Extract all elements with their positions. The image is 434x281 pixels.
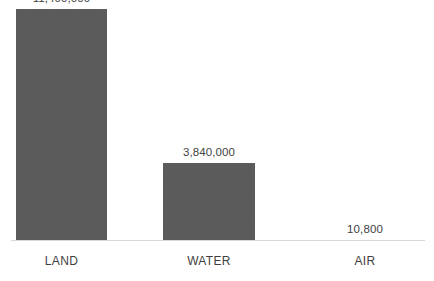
- category-axis-labels: LAND WATER AIR: [0, 241, 434, 281]
- plot-area: 11,400,000 3,840,000 10,800: [0, 0, 434, 241]
- value-label-water: 3,840,000: [123, 146, 295, 159]
- bar-water[interactable]: [163, 163, 255, 241]
- category-label-air: AIR: [280, 254, 434, 268]
- bar-land[interactable]: [16, 9, 107, 241]
- value-label-land: 11,400,000: [0, 0, 147, 5]
- category-label-water: WATER: [123, 254, 295, 268]
- value-label-air: 10,800: [280, 223, 434, 236]
- bars-layer: [0, 0, 434, 241]
- bar-chart: 11,400,000 3,840,000 10,800 LAND WATER A…: [0, 0, 434, 281]
